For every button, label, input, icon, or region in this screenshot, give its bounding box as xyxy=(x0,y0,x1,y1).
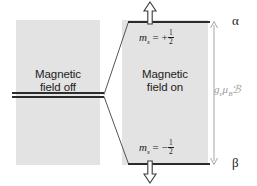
ms-lower-label: ms = −12 xyxy=(139,139,174,156)
ms-lower-denominator: 2 xyxy=(168,148,174,156)
energy-gap-label: geμBℬ xyxy=(214,83,241,98)
magnetic-field-off-label: Magnetic field off xyxy=(16,68,100,94)
ms-upper-relation: = + xyxy=(152,31,167,43)
ms-upper-symbol: m xyxy=(139,31,147,43)
magnetic-field-on-label: Magnetic field on xyxy=(122,68,208,94)
ms-lower-subscript: s xyxy=(147,148,150,156)
ms-upper-fraction: 12 xyxy=(168,29,174,46)
zeeman-splitting-figure: Magnetic field off Magnetic field on ms … xyxy=(0,0,257,186)
spin-up-arrow-icon xyxy=(141,0,159,26)
ms-lower-symbol: m xyxy=(139,141,147,153)
spin-down-arrow-icon xyxy=(141,159,159,185)
beta-state-label: β xyxy=(232,155,239,171)
degenerate-level-line-lower xyxy=(12,96,104,98)
alpha-state-label: α xyxy=(232,13,239,29)
ms-lower-fraction: 12 xyxy=(168,139,174,156)
magnetic-field-symbol: ℬ xyxy=(232,83,241,95)
ms-upper-label: ms = +12 xyxy=(139,29,174,46)
ms-upper-denominator: 2 xyxy=(168,38,174,46)
ms-upper-subscript: s xyxy=(147,38,150,46)
ms-lower-relation: = − xyxy=(152,141,167,153)
